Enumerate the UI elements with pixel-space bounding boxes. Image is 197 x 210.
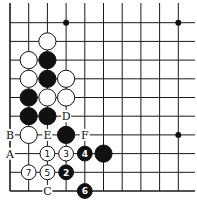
stone-disc [58,89,75,106]
move-number: 2 [63,168,69,178]
point-label-f: F [81,129,89,142]
black-stone-move-6: 6 [77,184,92,199]
stone-disc [20,89,37,106]
star-point [175,132,181,138]
go-board: 1234567 ABCDEF [0,0,197,210]
point-label-e: E [43,129,51,142]
stone-disc [39,108,56,125]
move-number: 3 [63,149,69,159]
stone-disc [95,145,112,162]
black-stone [95,145,112,162]
black-stone [58,126,75,143]
white-stone [20,70,37,87]
stone-disc [39,70,56,87]
stone-disc [20,126,37,143]
stone-disc [58,70,75,87]
point-label-d: D [62,110,71,123]
point-label-a: A [5,148,15,161]
white-stone [20,52,37,69]
stone-disc [20,70,37,87]
white-stone [39,89,56,106]
stone-disc [39,52,56,69]
move-number: 5 [45,168,51,178]
move-number: 7 [26,168,32,178]
white-stone [39,33,56,50]
white-stone [58,70,75,87]
point-label-c: C [43,185,51,198]
black-stone-move-4: 4 [77,146,92,161]
black-stone [39,108,56,125]
stone-disc [20,108,37,125]
white-stone-move-7: 7 [21,165,36,180]
point-label-b: B [6,129,14,142]
stone-disc [39,89,56,106]
white-stone [58,89,75,106]
star-point [63,20,69,26]
white-stone-move-1: 1 [40,146,55,161]
move-number: 6 [82,186,88,196]
stone-disc [58,126,75,143]
white-stone-move-3: 3 [59,146,74,161]
black-stone-move-2: 2 [59,165,74,180]
white-stone [20,126,37,143]
star-point [175,20,181,26]
move-number: 1 [45,149,51,159]
white-stone-move-5: 5 [40,165,55,180]
stone-disc [20,52,37,69]
move-number: 4 [82,149,88,159]
black-stone [39,70,56,87]
black-stone [20,89,37,106]
stone-disc [39,33,56,50]
black-stone [39,52,56,69]
black-stone [20,108,37,125]
